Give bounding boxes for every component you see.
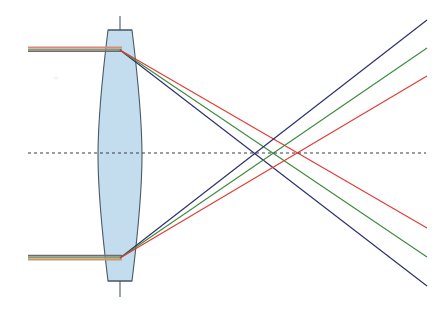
- biconvex-lens-shape: [98, 30, 142, 281]
- ray-blue-lower: [120, 20, 427, 258]
- optics-svg: [0, 0, 437, 311]
- registration-mark: [53, 75, 59, 81]
- upper-incoming-ray-bundle: [28, 48, 122, 52]
- ray-blue-upper: [120, 50, 427, 286]
- lower-incoming-ray-bundle: [28, 256, 122, 260]
- ray-red-lower: [120, 76, 427, 258]
- optics-diagram: [0, 0, 437, 311]
